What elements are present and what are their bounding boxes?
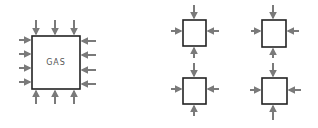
small-container-4 — [250, 63, 301, 120]
gas-container: GAS — [19, 20, 96, 104]
small-container-1 — [171, 5, 219, 58]
small-container-3 — [171, 63, 219, 116]
gas-pressure-diagram: GAS — [0, 0, 318, 128]
small-container-2 — [251, 5, 299, 58]
gas-label: GAS — [46, 58, 66, 67]
